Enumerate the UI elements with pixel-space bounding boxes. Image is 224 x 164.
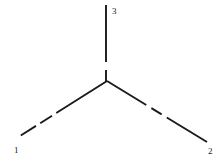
leg-label-3: 3	[112, 6, 117, 16]
vertex-diagram: 1 2 3	[0, 0, 224, 164]
figure-canvas: 1 2 3	[0, 0, 224, 164]
background	[0, 0, 224, 164]
leg-label-2: 2	[208, 146, 213, 156]
leg-label-1: 1	[14, 145, 19, 155]
